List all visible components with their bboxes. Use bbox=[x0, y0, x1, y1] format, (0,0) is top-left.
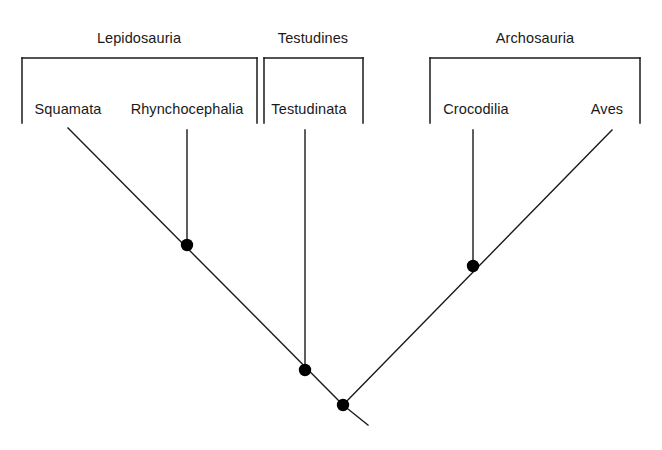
node-lepidosauria bbox=[181, 239, 193, 251]
group-testudines-label: Testudines bbox=[278, 30, 348, 46]
branch-left-backbone bbox=[68, 128, 343, 405]
taxon-testudinata-label: Testudinata bbox=[271, 101, 346, 117]
group-lepidosauria-label: Lepidosauria bbox=[97, 30, 181, 46]
node-testudinata-split bbox=[299, 364, 311, 376]
node-root bbox=[337, 399, 349, 411]
group-archosauria-label: Archosauria bbox=[496, 30, 574, 46]
cladogram-figure: LepidosauriaTestudinesArchosauria Squama… bbox=[0, 0, 662, 450]
tree-canvas bbox=[0, 0, 662, 450]
taxon-rhynchocephalia-label: Rhynchocephalia bbox=[131, 101, 244, 117]
taxon-squamata-label: Squamata bbox=[35, 101, 102, 117]
taxon-aves-label: Aves bbox=[591, 101, 623, 117]
taxon-crocodilia-label: Crocodilia bbox=[443, 101, 508, 117]
tree-nodes bbox=[181, 239, 479, 411]
tree-branches bbox=[68, 128, 612, 425]
node-crocodilia-split bbox=[467, 260, 479, 272]
